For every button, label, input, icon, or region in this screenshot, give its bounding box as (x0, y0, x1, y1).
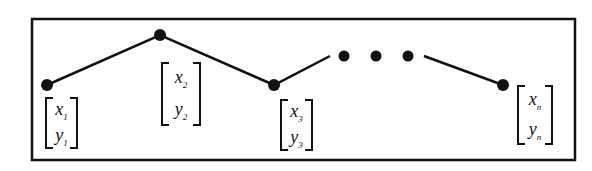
node-n (497, 79, 509, 91)
vector-label-1: x1 y1 (45, 97, 78, 149)
vector-label-3: x3 y3 (280, 99, 313, 151)
polyline-segment-last (424, 56, 503, 85)
node-1 (41, 79, 53, 91)
ellipsis-dot (339, 51, 350, 62)
node-2 (154, 29, 166, 41)
node-3 (268, 79, 280, 91)
vector-label-2: x2 y2 (161, 62, 201, 126)
vector-label-n: xn yn (517, 85, 553, 145)
ellipsis-dot (403, 51, 414, 62)
ellipsis-dot (371, 51, 382, 62)
